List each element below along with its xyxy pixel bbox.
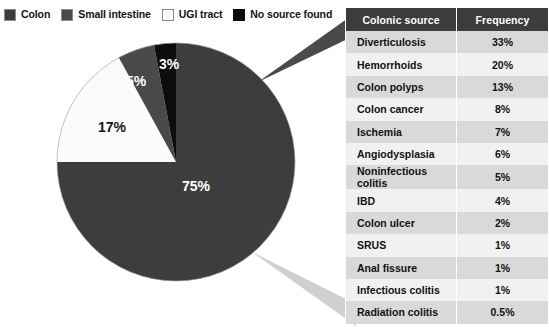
- cell-source: Diverticulosis: [346, 31, 457, 53]
- table-row: Angiodysplasia 6%: [346, 143, 549, 165]
- pie-label-small-intestine: 5%: [126, 73, 147, 89]
- legend-swatch-icon: [233, 9, 245, 21]
- table-header-frequency: Frequency: [457, 8, 549, 31]
- cell-frequency: 5%: [457, 165, 549, 189]
- legend-item-small-intestine: Small intestine: [61, 9, 151, 21]
- cell-source: Anal fissure: [346, 257, 457, 279]
- cell-frequency: 2%: [457, 212, 549, 234]
- pie-chart-svg: 75% 17% 5% 3%: [50, 36, 302, 288]
- table-row: SRUS 1%: [346, 234, 549, 256]
- cell-frequency: 6%: [457, 143, 549, 165]
- cell-source: Ischemia: [346, 121, 457, 143]
- legend-label: Small intestine: [78, 9, 151, 20]
- pie-label-no-source-found: 3%: [159, 56, 180, 72]
- table-header-row: Colonic source Frequency: [346, 8, 549, 31]
- cell-source: Colon ulcer: [346, 212, 457, 234]
- legend-label: UGI tract: [179, 9, 222, 20]
- table-row: Infectious colitis 1%: [346, 279, 549, 301]
- legend-item-ugi-tract: UGI tract: [162, 9, 222, 21]
- legend-swatch-icon: [4, 9, 16, 21]
- cell-source: Infectious colitis: [346, 279, 457, 301]
- cell-frequency: 20%: [457, 53, 549, 75]
- cell-source: Colon cancer: [346, 98, 457, 120]
- cell-source: SRUS: [346, 234, 457, 256]
- cell-frequency: 0.5%: [457, 301, 549, 323]
- table-row: Colon cancer 8%: [346, 98, 549, 120]
- table-row: Colon ulcer 2%: [346, 212, 549, 234]
- cell-source: Angiodysplasia: [346, 143, 457, 165]
- table-row: Noninfectious colitis 5%: [346, 165, 549, 189]
- cell-frequency: 1%: [457, 279, 549, 301]
- table-row: Anal fissure 1%: [346, 257, 549, 279]
- cell-frequency: 1%: [457, 257, 549, 279]
- figure-root: Colon Small intestine UGI tract No sourc…: [0, 0, 549, 327]
- cell-frequency: 4%: [457, 189, 549, 211]
- table-row: Radiation colitis 0.5%: [346, 301, 549, 323]
- cell-source: Hemorrhoids: [346, 53, 457, 75]
- table-body: Diverticulosis 33% Hemorrhoids 20% Colon…: [346, 31, 549, 324]
- cell-frequency: 1%: [457, 234, 549, 256]
- cell-frequency: 8%: [457, 98, 549, 120]
- pie-label-ugi-tract: 17%: [98, 119, 127, 135]
- table-row: Colon polyps 13%: [346, 76, 549, 98]
- cell-source: IBD: [346, 189, 457, 211]
- table-header: Colonic source Frequency: [346, 8, 549, 31]
- cell-source: Noninfectious colitis: [346, 165, 457, 189]
- table-header-colonic-source: Colonic source: [346, 8, 457, 31]
- legend-item-colon: Colon: [4, 9, 50, 21]
- table-row: Hemorrhoids 20%: [346, 53, 549, 75]
- colonic-source-table: Colonic source Frequency Diverticulosis …: [345, 8, 549, 324]
- cell-source: Colon polyps: [346, 76, 457, 98]
- table-row: Ischemia 7%: [346, 121, 549, 143]
- cell-source: Radiation colitis: [346, 301, 457, 323]
- cell-frequency: 7%: [457, 121, 549, 143]
- legend-label: Colon: [21, 9, 50, 20]
- cell-frequency: 33%: [457, 31, 549, 53]
- cell-frequency: 13%: [457, 76, 549, 98]
- pie-label-colon: 75%: [182, 178, 211, 194]
- legend-swatch-icon: [162, 9, 174, 21]
- legend-swatch-icon: [61, 9, 73, 21]
- pie-chart: 75% 17% 5% 3%: [50, 36, 302, 288]
- table-row: IBD 4%: [346, 189, 549, 211]
- table-row: Diverticulosis 33%: [346, 31, 549, 53]
